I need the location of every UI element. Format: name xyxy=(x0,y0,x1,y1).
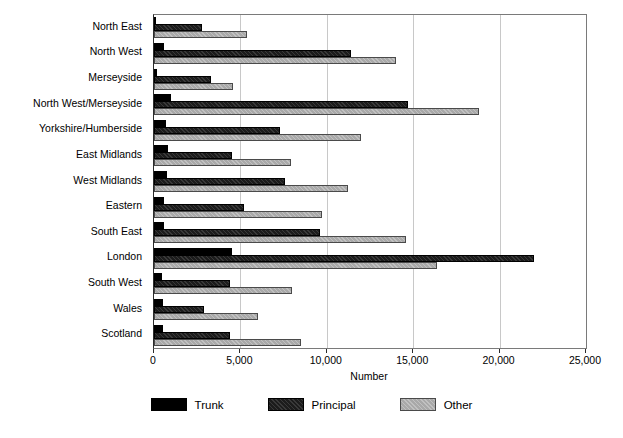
plot-area xyxy=(153,14,587,349)
legend-swatch-other xyxy=(400,398,436,411)
y-axis-label: Scotland xyxy=(0,328,142,339)
legend-item-trunk: Trunk xyxy=(151,398,224,411)
bar-group xyxy=(154,197,586,218)
bar-principal xyxy=(154,50,351,57)
bar-principal xyxy=(154,306,204,313)
bar-trunk xyxy=(154,171,167,178)
bar-principal xyxy=(154,204,244,211)
x-tick-label: 20,000 xyxy=(483,354,515,366)
y-axis-label: London xyxy=(0,251,142,262)
y-axis-label: Eastern xyxy=(0,200,142,211)
legend-item-principal: Principal xyxy=(268,398,356,411)
bar-group xyxy=(154,120,586,141)
bar-group xyxy=(154,171,586,192)
y-axis-label: North East xyxy=(0,21,142,32)
y-axis-label: South East xyxy=(0,226,142,237)
legend-label: Other xyxy=(444,399,473,411)
y-axis-label: East Midlands xyxy=(0,149,142,160)
x-axis-title: Number xyxy=(153,370,585,382)
x-tick-mark xyxy=(326,349,327,353)
bar-trunk xyxy=(154,197,164,204)
bar-group xyxy=(154,43,586,64)
bar-group xyxy=(154,299,586,320)
y-axis-category-labels: North EastNorth WestMerseysideNorth West… xyxy=(0,14,148,347)
x-tick-label: 5,000 xyxy=(226,354,252,366)
legend-swatch-trunk xyxy=(151,398,187,411)
bar-trunk xyxy=(154,94,171,101)
bar-other xyxy=(154,108,479,115)
bar-group xyxy=(154,145,586,166)
legend-swatch-principal xyxy=(268,398,304,411)
legend-label: Principal xyxy=(312,399,356,411)
y-axis-label: South West xyxy=(0,277,142,288)
y-axis-label: Yorkshire/Humberside xyxy=(0,123,142,134)
y-axis-label: North West xyxy=(0,46,142,57)
bar-group xyxy=(154,17,586,38)
x-tick-label: 0 xyxy=(150,354,156,366)
bar-group xyxy=(154,94,586,115)
bar-other xyxy=(154,287,292,294)
bar-other xyxy=(154,31,247,38)
bar-other xyxy=(154,313,258,320)
x-tick-label: 15,000 xyxy=(396,354,428,366)
bar-chart: North EastNorth WestMerseysideNorth West… xyxy=(0,0,623,438)
bar-trunk xyxy=(154,43,164,50)
bar-group xyxy=(154,273,586,294)
bar-principal xyxy=(154,332,230,339)
x-tick-mark xyxy=(153,349,154,353)
bar-group xyxy=(154,248,586,269)
bar-principal xyxy=(154,76,211,83)
bar-trunk xyxy=(154,222,164,229)
bar-other xyxy=(154,159,291,166)
x-tick-mark xyxy=(412,349,413,353)
bar-group xyxy=(154,69,586,90)
x-tick-mark xyxy=(239,349,240,353)
bar-principal xyxy=(154,101,408,108)
x-tick-mark xyxy=(499,349,500,353)
y-axis-label: Wales xyxy=(0,303,142,314)
bar-trunk xyxy=(154,17,156,24)
bar-principal xyxy=(154,229,320,236)
bar-trunk xyxy=(154,273,162,280)
bar-trunk xyxy=(154,145,168,152)
bar-group xyxy=(154,325,586,346)
bar-principal xyxy=(154,255,534,262)
bar-group xyxy=(154,222,586,243)
y-axis-label: Merseyside xyxy=(0,72,142,83)
x-axis-ticks: 05,00010,00015,00020,00025,000 xyxy=(153,349,585,365)
bar-trunk xyxy=(154,325,163,332)
bar-trunk xyxy=(154,299,163,306)
bar-other xyxy=(154,185,348,192)
bar-principal xyxy=(154,152,232,159)
y-axis-label: West Midlands xyxy=(0,175,142,186)
x-tick-mark xyxy=(585,349,586,353)
bar-principal xyxy=(154,24,202,31)
bar-other xyxy=(154,57,396,64)
chart-legend: TrunkPrincipalOther xyxy=(0,398,623,411)
bar-other xyxy=(154,83,233,90)
bar-trunk xyxy=(154,120,166,127)
bar-trunk xyxy=(154,69,157,76)
legend-item-other: Other xyxy=(400,398,473,411)
x-tick-label: 10,000 xyxy=(310,354,342,366)
bar-other xyxy=(154,134,361,141)
bar-other xyxy=(154,211,322,218)
bar-other xyxy=(154,339,301,346)
bar-trunk xyxy=(154,248,232,255)
x-tick-label: 25,000 xyxy=(569,354,601,366)
bar-other xyxy=(154,262,437,269)
bar-principal xyxy=(154,280,230,287)
bar-principal xyxy=(154,127,280,134)
bar-other xyxy=(154,236,406,243)
bar-principal xyxy=(154,178,285,185)
legend-label: Trunk xyxy=(195,399,224,411)
y-axis-label: North West/Merseyside xyxy=(0,98,142,109)
